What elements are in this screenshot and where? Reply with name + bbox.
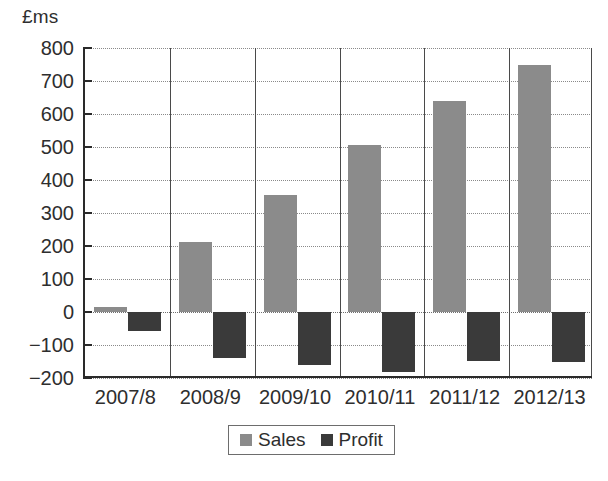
gridline--200 [85,378,592,379]
x-tick-label-2008-9: 2008/9 [180,386,241,408]
y-tick-label-700: 700 [10,71,74,91]
bar-profit-2009-10 [298,312,331,365]
bar-profit-2012-13 [552,312,585,362]
bar-sales-2009-10 [264,195,297,312]
y-tick-label--100: −100 [10,335,74,355]
y-tick-label-100: 100 [10,269,74,289]
legend-label-sales: Sales [258,430,306,449]
plot-area [83,48,592,378]
y-tick-label-400: 400 [10,170,74,190]
bar-sales-2008-9 [179,242,212,312]
y-tick-label-200: 200 [10,236,74,256]
bar-group-2009-10 [255,48,340,376]
y-tick-mark-300 [83,212,92,214]
y-tick-mark--200 [83,377,92,379]
x-tick-label-2010-11: 2010/11 [345,386,416,408]
legend-item-profit[interactable]: Profit [321,430,383,449]
y-tick-label-500: 500 [10,137,74,157]
bar-sales-2007-8 [94,307,127,312]
y-tick-mark-0 [83,311,92,313]
bar-sales-2012-13 [518,65,551,313]
bar-group-2008-9 [170,48,255,376]
x-tick-label-2009-10: 2009/10 [259,386,331,408]
x-tick-label-2011-12: 2011/12 [429,386,500,408]
x-axis-tick-labels: 2007/82008/92009/102010/112011/122012/13 [83,386,592,414]
y-axis-unit-label: £ms [22,6,59,28]
legend-label-profit: Profit [339,430,383,449]
x-tick-label-2007-8: 2007/8 [95,386,156,408]
bar-profit-2011-12 [467,312,500,361]
bar-sales-2010-11 [348,145,381,312]
y-tick-mark-800 [83,47,92,49]
bar-profit-2010-11 [382,312,415,372]
bar-profit-2008-9 [213,312,246,358]
legend-item-sales[interactable]: Sales [240,430,306,449]
x-tick-label-2012-13: 2012/13 [513,386,585,408]
chart-legend: SalesProfit [228,425,395,455]
bar-profit-2007-8 [128,312,161,331]
bar-group-2012-13 [509,48,594,376]
bar-sales-2011-12 [433,101,466,312]
y-tick-mark-500 [83,146,92,148]
y-tick-mark--100 [83,344,92,346]
bar-group-2010-11 [340,48,425,376]
y-tick-mark-200 [83,245,92,247]
y-tick-label-600: 600 [10,104,74,124]
y-tick-mark-400 [83,179,92,181]
bar-group-2011-12 [424,48,509,376]
bar-chart: £ms 8007006005004003002001000−100−200 20… [0,0,608,481]
y-axis-tick-labels: 8007006005004003002001000−100−200 [8,48,74,378]
y-tick-mark-100 [83,278,92,280]
y-tick-mark-600 [83,113,92,115]
bar-group-2007-8 [85,48,170,376]
y-tick-label-0: 0 [10,302,74,322]
legend-swatch-sales-icon [240,434,252,446]
y-tick-label-800: 800 [10,38,74,58]
y-tick-mark-700 [83,80,92,82]
legend-swatch-profit-icon [321,434,333,446]
y-tick-label-300: 300 [10,203,74,223]
y-tick-label--200: −200 [10,368,74,388]
